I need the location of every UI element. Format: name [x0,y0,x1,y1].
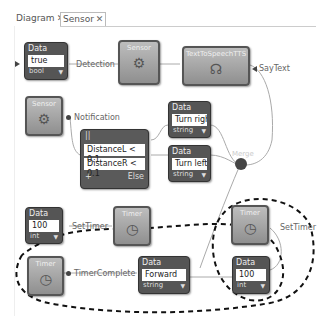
merge-node[interactable] [235,158,247,170]
value-field[interactable]: 100 [236,269,266,281]
node-title: TextToSpeechTTS [184,48,248,60]
gear-icon: ⚙ [27,110,61,128]
stopwatch-icon: ◷ [233,219,267,237]
node-header: Data [169,146,210,158]
type-select[interactable]: int▼ [233,281,269,290]
node-header: Data [26,208,62,220]
chevron-down-icon: ▼ [58,67,63,76]
type-select[interactable]: bool▼ [25,67,67,76]
else-label: Else [128,172,144,181]
gear-icon: ⚙ [120,54,158,72]
type-select[interactable]: int▼ [26,232,62,241]
value-field[interactable]: Turn left [172,158,207,170]
chevron-down-icon: ▼ [53,232,58,241]
timer-node[interactable]: Timer ◷ [113,206,151,246]
node-header: Data [169,102,210,114]
type-select[interactable]: string▼ [169,170,210,179]
value-field[interactable]: 100 [29,220,59,232]
label-notification: Notification [74,113,120,122]
output-port[interactable] [66,271,71,276]
stopwatch-icon: ◷ [115,220,149,238]
value-field[interactable]: true [28,55,64,67]
data-node-turn-left[interactable]: Data Turn left string▼ [168,145,211,182]
label-settimer: SetTimer [72,222,108,231]
label-settimer: SetTimer [280,223,316,232]
node-header: Data [233,257,269,269]
input-port[interactable] [252,66,257,72]
data-node-forward[interactable]: Data Forward string▼ [138,256,190,294]
stopwatch-icon: ◷ [29,270,62,288]
node-header: || [81,130,148,142]
add-case-button[interactable]: + [85,172,92,181]
data-node-turn-right[interactable]: Data Turn right string▼ [168,101,211,138]
timer-node[interactable]: Timer ◷ [231,205,269,245]
tts-node[interactable]: TextToSpeechTTS ☊ [182,46,250,86]
data-node-true[interactable]: Data true bool▼ [24,42,68,80]
node-title: Timer [29,258,62,270]
label-detection: Detection [76,60,115,69]
node-title: Sensor [27,98,61,110]
node-header: Data [25,43,67,55]
case-field[interactable]: DistanceL < 0.1 [84,144,145,156]
speaker-icon: ☊ [184,60,248,78]
chevron-down-icon: ▼ [260,281,265,290]
type-select[interactable]: string▼ [139,281,189,290]
sensor-node[interactable]: Sensor ⚙ [118,40,160,85]
label-timercomplete: TimerComplete [74,269,135,278]
node-title: Timer [115,208,149,220]
type-select[interactable]: string▼ [169,126,210,135]
label-saytext: SayText [259,64,290,73]
case-field[interactable]: DistanceR < 0.1 [84,158,145,170]
data-node-100[interactable]: Data 100 int▼ [25,207,63,244]
sensor-node[interactable]: Sensor ⚙ [25,96,63,136]
value-field[interactable]: Turn right [172,114,207,126]
data-node-100[interactable]: Data 100 int▼ [232,256,270,294]
node-title: Sensor [120,42,158,54]
chevron-down-icon: ▼ [201,170,206,179]
output-port[interactable] [66,115,71,120]
chevron-down-icon: ▼ [201,126,206,135]
node-header: Data [139,257,189,269]
switch-node[interactable]: || DistanceL < 0.1 DistanceR < 0.1 +Else [80,129,149,189]
label-merge: Merge [232,150,254,158]
node-title: Timer [233,207,267,219]
input-port[interactable] [15,61,20,67]
timer-node[interactable]: Timer ◷ [27,256,64,296]
value-field[interactable]: Forward [142,269,186,281]
chevron-down-icon: ▼ [180,281,185,290]
